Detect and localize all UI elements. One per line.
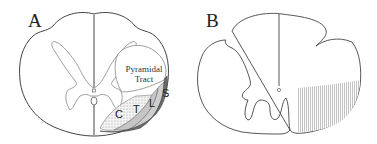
pyramidal-tract-label: Pyramidal Tract [122,64,166,84]
segment-c-label: C [115,108,123,120]
hatched-region [298,80,360,132]
spinal-cord-diagram [0,0,377,144]
panel-b-label: B [206,10,219,32]
panel-b-cord [198,13,361,134]
segment-s-label: S [162,87,169,99]
panel-a-label: A [28,10,42,32]
segment-l-label: L [149,97,155,109]
segment-t-label: T [133,103,140,115]
